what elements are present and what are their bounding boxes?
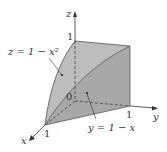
y-axis-label: y bbox=[152, 111, 159, 122]
y-axis bbox=[130, 106, 154, 108]
plane-leader-dot bbox=[86, 92, 88, 94]
y-tick-label: 1 bbox=[126, 109, 132, 120]
z-axis-arrow-icon bbox=[73, 11, 77, 17]
parabola-leader-dot bbox=[61, 74, 63, 76]
plane-surface-label: y = 1 − x bbox=[87, 122, 135, 133]
z-axis-label: z bbox=[65, 8, 72, 19]
x-tick-label: 1 bbox=[44, 128, 50, 139]
x-axis-label: x bbox=[21, 135, 27, 146]
y-axis-arrow-icon bbox=[152, 106, 158, 111]
solid-diagram: z 1 0 y 1 x 1 z = 1 − x² y = 1 − x bbox=[0, 0, 167, 152]
origin-label: 0 bbox=[66, 91, 72, 102]
z-tick-label: 1 bbox=[67, 31, 73, 42]
parabola-leader-line bbox=[49, 58, 61, 74]
parabola-surface-label: z = 1 − x² bbox=[7, 46, 59, 57]
